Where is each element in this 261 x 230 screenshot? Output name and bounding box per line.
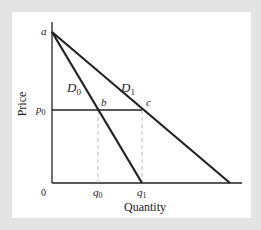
point-a-label: a	[41, 25, 47, 37]
quantity-q0-label: q0	[93, 186, 103, 200]
quantity-q1-label: q1	[137, 186, 147, 200]
demand-curve-d0	[52, 32, 142, 183]
origin-label: 0	[41, 187, 46, 198]
x-axis-label: Quantity	[124, 200, 166, 214]
point-c-label: c	[146, 96, 151, 108]
price-p0-label: p0	[35, 103, 46, 117]
curve-d1-label: D1	[120, 80, 135, 97]
point-b-label: b	[101, 96, 107, 108]
y-axis-label: Price	[15, 92, 29, 117]
curve-d0-label: D0	[66, 80, 81, 97]
demand-diagram: a b c D0 D1 p0 0 q0 q1 Quantity Price	[0, 0, 261, 230]
demand-curve-d1	[52, 32, 230, 183]
